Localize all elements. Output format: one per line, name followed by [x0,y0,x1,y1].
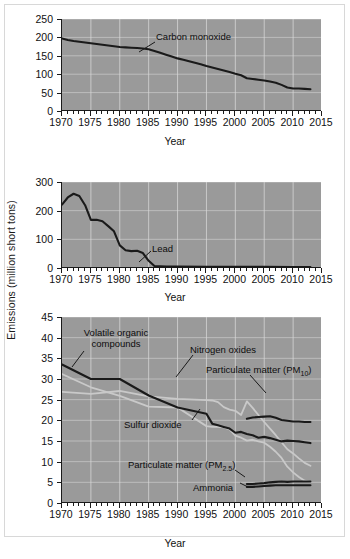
voc-label-line2: compounds [91,338,140,349]
x-tick-mark-minor [275,111,276,114]
x-tick-mark-minor [286,268,287,271]
x-tick-mark-minor [286,503,287,506]
x-tick-mark-minor [159,268,160,271]
series-carbon-monoxide [62,39,310,90]
pm10-label-text: Particulate matter (PM [206,364,301,375]
x-tick-mark-minor [101,268,102,271]
series-ammonia [247,485,311,487]
pm25-label-end: ) [232,459,235,470]
x-tick-mark-minor [217,111,218,114]
x-tick-mark-minor [252,111,253,114]
x-tick-mark-minor [281,111,282,114]
x-tick-mark-minor [304,503,305,506]
pm25-label-text: Particulate matter (PM [128,459,223,470]
y-tick-mark [57,37,61,38]
x-tick-mark-minor [309,111,310,114]
x-tick-label: 2015 [303,274,339,285]
x-tick-label: 2015 [303,509,339,520]
y-tick-mark [57,93,61,94]
x-tick-mark-minor [107,503,108,506]
x-tick-mark-minor [171,268,172,271]
carbon-monoxide-label: Carbon monoxide [156,32,231,43]
x-tick-mark-minor [107,111,108,114]
y-tick-label: 15 [0,436,53,446]
x-tick-mark-minor [315,111,316,114]
x-tick-mark-minor [246,111,247,114]
y-tick-label: 35 [0,353,53,363]
x-tick-mark-minor [315,268,316,271]
x-tick-mark-minor [223,503,224,506]
x-tick-mark-minor [78,268,79,271]
lead-plot-svg [62,182,321,268]
y-tick-label: 0 [0,498,53,508]
x-tick-mark-minor [153,111,154,114]
x-tick-mark-minor [67,111,68,114]
y-tick-mark [57,441,61,442]
y-tick-mark [57,482,61,483]
x-tick-mark-minor [67,503,68,506]
x-tick-mark-minor [229,268,230,271]
x-tick-mark-minor [269,111,270,114]
x-tick-mark-minor [125,111,126,114]
emissions-figure: Emissions (million short tons) 050100150… [0,0,350,559]
x-tick-mark-minor [257,111,258,114]
x-tick-mark-minor [188,268,189,271]
x-tick-mark-minor [217,503,218,506]
x-tick-mark-minor [73,268,74,271]
x-tick-mark-minor [223,268,224,271]
x-tick-mark-minor [200,111,201,114]
x-tick-mark-minor [200,503,201,506]
x-tick-mark-minor [171,503,172,506]
y-tick-label: 45 [0,312,53,322]
x-tick-mark-minor [188,503,189,506]
pm10-label-end: ) [308,364,311,375]
y-tick-mark [57,317,61,318]
y-tick-mark [57,239,61,240]
series-nitrogen-oxides [62,391,310,466]
y-tick-label: 200 [0,206,53,216]
y-tick-label: 100 [0,234,53,244]
x-tick-mark-minor [136,503,137,506]
x-tick-mark-minor [136,111,137,114]
x-tick-mark-minor [304,268,305,271]
x-tick-mark-minor [200,268,201,271]
ammonia-label: Ammonia [193,483,233,494]
y-tick-label: 200 [0,32,53,42]
x-tick-mark-minor [113,503,114,506]
x-tick-mark-minor [165,268,166,271]
x-tick-mark-minor [182,268,183,271]
voc-label-line1: Volatile organic [84,327,148,338]
voc-label: Volatile organic compounds [68,328,164,349]
x-tick-mark-minor [252,503,253,506]
x-tick-mark-minor [298,111,299,114]
x-tick-mark-minor [223,111,224,114]
y-tick-label: 25 [0,395,53,405]
y-tick-mark [57,182,61,183]
y-tick-mark [57,420,61,421]
x-tick-mark-minor [194,503,195,506]
series-particulate-matter-pm10 [247,416,311,422]
x-tick-mark-minor [78,111,79,114]
y-tick-label: 0 [0,263,53,273]
x-tick-mark-minor [240,268,241,271]
y-tick-label: 250 [0,14,53,24]
y-tick-mark [57,379,61,380]
x-tick-mark-minor [130,268,131,271]
x-tick-mark-minor [275,503,276,506]
x-tick-mark-minor [113,111,114,114]
x-tick-mark-minor [309,503,310,506]
x-tick-mark-minor [275,268,276,271]
x-tick-mark-minor [182,111,183,114]
x-tick-mark-minor [286,111,287,114]
x-tick-mark-minor [269,268,270,271]
x-tick-mark-minor [107,268,108,271]
x-tick-mark-minor [142,503,143,506]
y-tick-label: 150 [0,51,53,61]
y-tick-mark [57,74,61,75]
x-tick-mark-minor [298,268,299,271]
y-tick-label: 50 [0,88,53,98]
x-tick-mark-minor [78,503,79,506]
x-tick-mark-minor [257,268,258,271]
x-tick-mark-minor [281,503,282,506]
x-tick-mark-minor [84,268,85,271]
